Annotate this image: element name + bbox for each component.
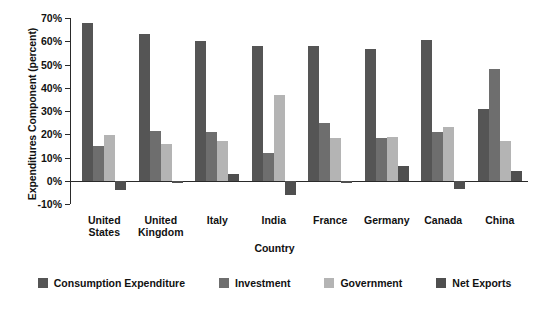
bar-group: France xyxy=(302,18,359,204)
x-axis-title: Country xyxy=(0,242,549,254)
y-axis-tick-label: -10% xyxy=(37,198,62,210)
y-axis-tick-label: 30% xyxy=(41,105,62,117)
legend-label: Net Exports xyxy=(452,277,511,289)
legend-item[interactable]: Government xyxy=(324,277,402,289)
plot-area: -10%0%10%20%30%40%50%60%70% UnitedStates… xyxy=(70,18,528,204)
x-axis-category-label-line: India xyxy=(246,214,303,226)
bar xyxy=(206,132,217,181)
bar xyxy=(104,135,115,180)
x-axis-category-label: France xyxy=(302,214,359,226)
y-axis-tick xyxy=(65,111,70,112)
legend-swatch-icon xyxy=(436,278,446,288)
bar-group: UnitedStates xyxy=(76,18,133,204)
y-axis-tick xyxy=(65,65,70,66)
bar xyxy=(341,181,352,183)
legend-swatch-icon xyxy=(38,278,48,288)
y-axis-tick-label: 0% xyxy=(47,175,62,187)
bar xyxy=(454,181,465,189)
x-axis-category-label-line: France xyxy=(302,214,359,226)
legend-item[interactable]: Consumption Expenditure xyxy=(38,277,185,289)
legend-label: Consumption Expenditure xyxy=(54,277,185,289)
bar xyxy=(376,138,387,181)
x-axis-category-label-line: Canada xyxy=(415,214,472,226)
bar xyxy=(115,181,126,190)
x-axis-category-label-line: United xyxy=(76,214,133,226)
y-axis-tick-label: 60% xyxy=(41,35,62,47)
bar xyxy=(263,153,274,181)
bar-group: China xyxy=(472,18,529,204)
y-axis-tick-label: 50% xyxy=(41,59,62,71)
legend-item[interactable]: Investment xyxy=(219,277,290,289)
x-axis-category-label-line: China xyxy=(472,214,529,226)
bar xyxy=(82,23,93,181)
y-axis-tick xyxy=(65,18,70,19)
x-axis-category-label: China xyxy=(472,214,529,226)
y-axis-tick-label: 20% xyxy=(41,128,62,140)
x-axis-category-label: Italy xyxy=(189,214,246,226)
legend-label: Investment xyxy=(235,277,290,289)
y-axis-line xyxy=(70,18,71,204)
bar xyxy=(139,34,150,180)
bar xyxy=(421,40,432,181)
bar xyxy=(308,46,319,181)
legend-item[interactable]: Net Exports xyxy=(436,277,511,289)
y-axis-tick-label: 10% xyxy=(41,152,62,164)
bar xyxy=(398,166,409,181)
x-axis-category-label: Germany xyxy=(359,214,416,226)
y-axis-tick-label: 70% xyxy=(41,12,62,24)
x-axis-category-label-line: Germany xyxy=(359,214,416,226)
bar-group: Canada xyxy=(415,18,472,204)
bar-group: UnitedKingdom xyxy=(133,18,190,204)
y-axis-tick-label: 40% xyxy=(41,82,62,94)
bar xyxy=(93,146,104,181)
bar xyxy=(150,131,161,181)
bar xyxy=(489,69,500,181)
x-axis-category-label-line: Kingdom xyxy=(133,226,190,238)
legend-swatch-icon xyxy=(324,278,334,288)
x-axis-category-label: Canada xyxy=(415,214,472,226)
bar-chart: Expenditures Component (percent) -10%0%1… xyxy=(0,0,549,309)
x-axis-category-label: India xyxy=(246,214,303,226)
bar xyxy=(478,109,489,181)
bar xyxy=(195,41,206,181)
bar xyxy=(172,181,183,183)
bar xyxy=(217,141,228,181)
legend-label: Government xyxy=(340,277,402,289)
y-axis-tick xyxy=(65,158,70,159)
x-axis-category-label: UnitedStates xyxy=(76,214,133,238)
y-axis-tick xyxy=(65,88,70,89)
chart-legend: Consumption ExpenditureInvestmentGovernm… xyxy=(0,277,549,289)
bar xyxy=(365,49,376,180)
bar xyxy=(443,127,454,180)
bar xyxy=(511,171,522,180)
y-axis-tick xyxy=(65,204,70,205)
bar xyxy=(285,181,296,195)
bar xyxy=(274,95,285,181)
bar xyxy=(500,141,511,181)
y-axis-tick xyxy=(65,41,70,42)
y-axis-tick xyxy=(65,181,70,182)
bar xyxy=(432,132,443,181)
x-axis-category-label-line: Italy xyxy=(189,214,246,226)
bar xyxy=(330,138,341,181)
y-axis-title: Expenditures Component (percent) xyxy=(26,14,38,214)
x-axis-category-label-line: United xyxy=(133,214,190,226)
bar-group: Italy xyxy=(189,18,246,204)
bar xyxy=(228,174,239,181)
bar xyxy=(387,137,398,181)
y-axis-tick xyxy=(65,134,70,135)
bar xyxy=(161,144,172,181)
x-axis-category-label: UnitedKingdom xyxy=(133,214,190,238)
legend-swatch-icon xyxy=(219,278,229,288)
bar xyxy=(252,46,263,181)
bar-group: India xyxy=(246,18,303,204)
bar-group: Germany xyxy=(359,18,416,204)
bar xyxy=(319,123,330,181)
x-axis-category-label-line: States xyxy=(76,226,133,238)
